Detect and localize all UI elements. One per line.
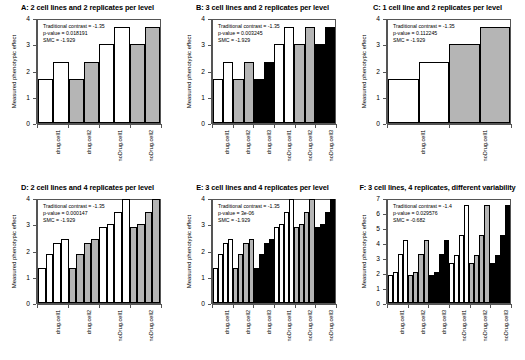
x-tick-label: drug.cell1: [224, 130, 230, 176]
y-tick-label: 4: [350, 15, 380, 22]
plot-area: Traditional contrast = -1.35p-value = 3e…: [212, 199, 336, 304]
x-tick-label: drug.cell2: [86, 130, 92, 176]
bar: [505, 205, 510, 303]
panel-c: C: 1 cell line and 2 replicates per leve…: [350, 0, 525, 180]
bar: [84, 243, 92, 303]
x-tick-mark: [161, 124, 162, 128]
x-tick-label: noDrug.cell2: [148, 130, 154, 176]
y-tick-mark: [33, 304, 36, 305]
stat-line-pvalue: p-value = 0.000147: [43, 210, 105, 217]
x-tick-labels: drug.cell1drug.cell2noDrug.cell1noDrug.c…: [37, 130, 161, 178]
y-tick-label: 1: [0, 94, 30, 101]
x-tick-label: drug.cell3: [266, 130, 272, 176]
x-tick-label: noDrug.cell1: [117, 310, 123, 356]
bar: [130, 44, 145, 123]
y-tick-label: 6: [350, 210, 380, 217]
bar: [330, 199, 335, 303]
x-tick-label: drug.cell1: [55, 130, 61, 176]
y-tick-label: 3: [175, 221, 205, 228]
x-tick-mark: [99, 124, 100, 128]
stats-annotation: Traditional contrast = -1.35p-value = 0.…: [43, 23, 105, 45]
panel-title: F: 3 cell lines, 4 replicates, different…: [350, 183, 525, 192]
stat-line-contrast: Traditional contrast = -1.4: [393, 203, 452, 210]
x-tick-mark: [99, 304, 100, 308]
y-tick-label: 1: [175, 274, 205, 281]
bar: [38, 79, 53, 123]
x-tick-mark: [68, 304, 69, 308]
x-tick-label: noDrug.cell1: [286, 130, 292, 176]
x-tick-mark: [253, 304, 254, 308]
x-tick-mark: [449, 304, 450, 308]
x-tick-label: noDrug.cell1: [461, 310, 467, 356]
stats-annotation: Traditional contrast = -1.35p-value = 0.…: [43, 203, 105, 225]
bar: [46, 254, 54, 303]
stat-line-smc: SMC = -1.929: [43, 217, 105, 224]
bar: [254, 79, 264, 123]
bar: [233, 79, 243, 123]
bar: [145, 212, 153, 303]
x-tick-label: noDrug.cell2: [148, 310, 154, 356]
x-tick-label: noDrug.cell3: [328, 130, 334, 176]
stat-line-contrast: Traditional contrast = -1.35: [218, 203, 280, 210]
x-tick-mark: [274, 124, 275, 128]
bar: [61, 239, 69, 303]
y-tick-label: 0: [350, 120, 380, 127]
y-tick-label: 3: [350, 41, 380, 48]
x-tick-label: drug.cell3: [266, 310, 272, 356]
panel-e: E: 3 cell lines and 4 replicates per lev…: [175, 180, 350, 360]
stat-line-contrast: Traditional contrast = -1.35: [218, 23, 280, 30]
x-tick-label: drug.cell2: [245, 310, 251, 356]
stat-line-pvalue: p-value = 0.112245: [393, 30, 455, 37]
x-tick-label: drug.cell2: [245, 130, 251, 176]
bar: [315, 44, 325, 123]
stat-line-pvalue: p-value = 0.018191: [43, 30, 105, 37]
bar: [38, 268, 46, 303]
x-tick-mark: [470, 304, 471, 308]
x-tick-mark: [233, 124, 234, 128]
y-tick-label: 3: [0, 221, 30, 228]
stat-line-smc: SMC = -0.682: [393, 217, 452, 224]
x-tick-label: drug.cell1: [399, 310, 405, 356]
y-tick-label: 4: [0, 15, 30, 22]
stat-line-pvalue: p-value = 3e-06: [218, 210, 280, 217]
plot-area: Traditional contrast = -1.35p-value = 0.…: [37, 19, 161, 124]
y-tick-label: 7: [350, 195, 380, 202]
y-tick-mark: [33, 124, 36, 125]
y-tick-label: 2: [175, 248, 205, 255]
y-tick-label: 0: [175, 120, 205, 127]
bar: [99, 227, 107, 303]
panel-a: A: 2 cell lines and 2 replicates per lev…: [0, 0, 175, 180]
x-tick-mark: [408, 304, 409, 308]
stat-line-pvalue: p-value = 0.029576: [393, 210, 452, 217]
x-tick-labels: drug.cell1drug.cell2drug.cell3noDrug.cel…: [387, 310, 511, 358]
x-tick-mark: [315, 304, 316, 308]
y-tick-label: 1: [350, 94, 380, 101]
stats-annotation: Traditional contrast = -1.4p-value = 0.0…: [393, 203, 452, 225]
x-tick-mark: [161, 304, 162, 308]
y-tick-mark: [383, 304, 386, 305]
bar: [388, 79, 419, 123]
x-tick-mark: [336, 124, 337, 128]
x-tick-label: noDrug.cell3: [503, 310, 509, 356]
bar: [114, 27, 129, 123]
bar: [223, 62, 233, 123]
plot-area: Traditional contrast = -1.35p-value = 0.…: [212, 19, 336, 124]
x-tick-labels: drug.cell1drug.cell2drug.cell3noDrug.cel…: [212, 310, 336, 358]
x-tick-mark: [212, 304, 213, 308]
stat-line-pvalue: p-value = 0.003245: [218, 30, 280, 37]
stat-line-contrast: Traditional contrast = -1.35: [393, 23, 455, 30]
x-tick-label: noDrug.cell1: [117, 130, 123, 176]
bar: [114, 212, 122, 303]
bar: [53, 243, 61, 303]
x-tick-mark: [428, 304, 429, 308]
bar: [99, 44, 114, 123]
x-tick-label: noDrug.cell2: [307, 130, 313, 176]
x-tick-labels: drug.cell1drug.cell2noDrug.cell1noDrug.c…: [37, 310, 161, 358]
bar: [294, 44, 304, 123]
x-tick-mark: [274, 304, 275, 308]
x-tick-mark: [130, 304, 131, 308]
y-tick-label: 2: [350, 68, 380, 75]
plot-area: Traditional contrast = -1.35p-value = 0.…: [387, 19, 511, 124]
bar: [137, 224, 145, 303]
bar: [69, 79, 84, 123]
